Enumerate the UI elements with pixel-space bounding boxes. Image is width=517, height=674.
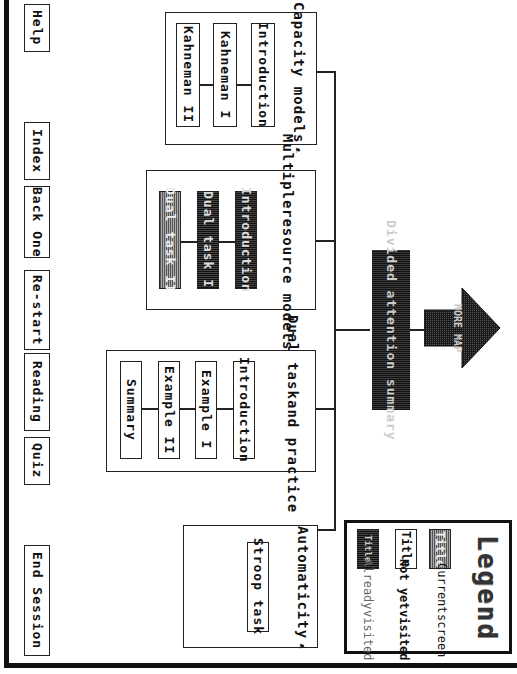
group-title-line1: Multiple bbox=[280, 134, 295, 209]
group-title-text: Capacity models bbox=[291, 2, 306, 143]
legend-label-line2: visited bbox=[362, 610, 374, 661]
legend-label-line2: screen bbox=[436, 614, 448, 657]
restart-button[interactable]: Re-start bbox=[24, 270, 50, 350]
legend-label-line1: Current bbox=[436, 563, 448, 614]
node-capacity-introduction[interactable]: Introduction bbox=[251, 23, 275, 127]
connector-center bbox=[334, 329, 370, 331]
group-title: Capacity models⚑ bbox=[286, 19, 310, 139]
node-stroop-task[interactable]: Stroop task bbox=[247, 542, 269, 632]
group-title-line2: and practice bbox=[285, 400, 300, 513]
connector-multiple bbox=[315, 240, 336, 242]
node-example-1[interactable]: Example I bbox=[195, 361, 217, 459]
screen-border-bottom bbox=[4, 663, 517, 668]
node-kahneman-1[interactable]: Kahneman I bbox=[213, 23, 237, 127]
screen-border-left bbox=[4, 0, 9, 668]
connector-dualtask bbox=[315, 408, 336, 410]
node-dual-task-2[interactable]: Dual task II bbox=[159, 191, 181, 289]
reading-button[interactable]: Reading bbox=[24, 353, 50, 431]
node-kahneman-2[interactable]: Kahneman II bbox=[176, 23, 200, 127]
center-node-divided-attention-summary[interactable]: Divided attention summary bbox=[372, 250, 410, 410]
help-button[interactable]: Help bbox=[24, 4, 50, 52]
legend-label-line2: visited bbox=[398, 610, 410, 661]
group-title: Multipleresource models bbox=[265, 183, 309, 301]
connector-more-map bbox=[408, 329, 424, 331]
group-automaticity: Automaticity⚑ Stroop task bbox=[183, 525, 318, 648]
connector-capacity bbox=[315, 71, 336, 73]
flag-icon: ⚑ bbox=[295, 642, 310, 652]
legend-panel: Legend Title Currentscreen Title Not yet… bbox=[344, 520, 512, 654]
node-dual-task-1[interactable]: Dual task I bbox=[197, 191, 219, 289]
group-dual-task-practice: Dual taskand practice Introduction Examp… bbox=[106, 350, 316, 472]
legend-title: Legend bbox=[467, 529, 507, 647]
node-dual-introduction[interactable]: Introduction bbox=[233, 361, 255, 459]
legend-label-line1: Already bbox=[362, 559, 374, 610]
end-session-button[interactable]: End Session bbox=[24, 545, 50, 656]
legend-label-line1: Not yet bbox=[398, 559, 410, 610]
group-multiple-resource-models: Multipleresource models Introduction Dua… bbox=[146, 170, 316, 310]
group-capacity-models: Capacity models⚑ Introduction Kahneman I… bbox=[165, 12, 317, 145]
node-summary[interactable]: Summary bbox=[120, 361, 142, 459]
back-one-button[interactable]: Back One bbox=[24, 186, 50, 258]
group-title-line1: Dual task bbox=[285, 315, 300, 400]
more-map-label: MORE MAP bbox=[442, 306, 472, 350]
node-link bbox=[127, 408, 247, 410]
legend-label-visited: Alreadyvisited bbox=[355, 575, 381, 645]
group-title: Automaticity⚑ bbox=[290, 534, 314, 644]
legend-label-current: Currentscreen bbox=[429, 575, 455, 645]
more-map-button[interactable]: MORE MAP bbox=[424, 288, 502, 368]
node-example-2[interactable]: Example II bbox=[158, 361, 180, 459]
group-title-text: Automaticity bbox=[295, 526, 310, 639]
group-title: Dual taskand practice bbox=[271, 359, 313, 469]
map-trunk-line bbox=[334, 71, 336, 531]
node-multiple-introduction[interactable]: Introduction bbox=[235, 191, 257, 289]
index-button[interactable]: Index bbox=[24, 122, 50, 180]
connector-automaticity bbox=[316, 529, 336, 531]
quiz-button[interactable]: Quiz bbox=[24, 437, 50, 485]
legend-label-not-visited: Not yetvisited bbox=[391, 575, 417, 645]
